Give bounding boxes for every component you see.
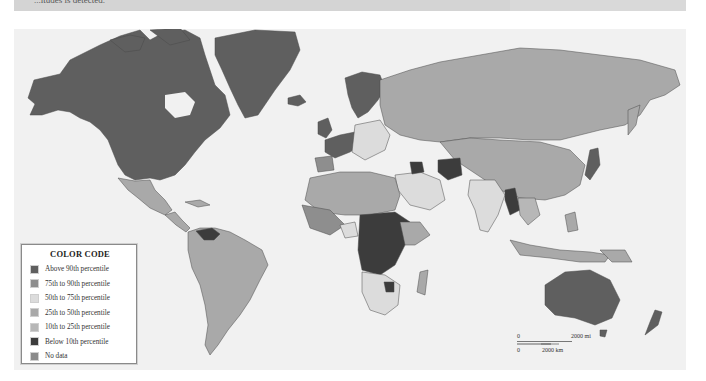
scale-line-mi [517,341,572,342]
region-japan [585,148,600,180]
scale-line-km [551,343,559,345]
region-indonesia [510,240,610,262]
region-australia [545,270,620,325]
region-arabia [395,172,445,210]
region-afghanistan [438,158,462,180]
swatch-50-75 [30,294,39,303]
legend-label: No data [45,352,68,360]
legend-item: 25th to 50th percentile [30,306,130,321]
region-eastern-europe [352,120,390,160]
region-iceland [288,95,306,106]
region-se-asia [518,198,540,225]
header-strip-right [510,0,686,11]
legend-title: COLOR CODE [30,249,130,259]
region-central-africa [358,212,410,275]
region-uk [318,118,332,138]
region-scandinavia [345,72,385,118]
region-russia [380,48,680,142]
scale-km-label: 2000 km [542,347,563,353]
legend-item: Below 10th percentile [30,335,130,350]
region-greenland [215,30,300,118]
region-new-zealand [645,310,662,335]
swatch-no-data [30,352,39,361]
region-nigeria [340,222,358,238]
legend-item: 75th to 90th percentile [30,277,130,292]
legend-item: 50th to 75th percentile [30,291,130,306]
region-central-america [165,212,190,232]
region-philippines [565,212,578,232]
region-zimbabwe [384,282,394,292]
swatch-10-25 [30,323,39,332]
legend-label: Below 10th percentile [45,338,108,346]
region-caribbean [185,200,210,207]
scale-line-km [541,343,551,345]
legend-label: 10th to 25th percentile [45,323,110,331]
swatch-25-50 [30,308,39,317]
scale-mi-label: 2000 mi [571,333,591,339]
region-southern-africa [362,272,400,315]
scale-line-km [517,343,541,345]
region-india [468,180,505,232]
region-mexico [118,178,172,215]
scale-bar: 0 2000 mi 0 2000 km [505,333,625,357]
legend-label: Above 90th percentile [45,265,109,273]
region-madagascar [417,270,428,295]
region-iberia [315,156,334,172]
legend-item: Above 90th percentile [30,262,130,277]
region-north-america [28,30,230,180]
legend-item: No data [30,349,130,364]
header-strip: ...itudes is detected. [14,0,510,11]
legend-label: 25th to 50th percentile [45,309,110,317]
scale-km-zero: 0 [517,347,520,353]
legend-label: 75th to 90th percentile [45,280,110,288]
scale-mi-zero: 0 [517,333,520,339]
region-east-africa [400,222,430,245]
legend: COLOR CODE Above 90th percentile 75th to… [21,244,137,364]
legend-label: 50th to 75th percentile [45,294,110,302]
region-south-america [188,228,268,355]
legend-item: 10th to 25th percentile [30,320,130,335]
region-iraq [410,162,424,174]
swatch-below-10 [30,337,39,346]
swatch-75-90 [30,279,39,288]
swatch-above-90 [30,265,39,274]
region-kamchatka [628,105,640,135]
header-caption: ...itudes is detected. [34,0,105,5]
